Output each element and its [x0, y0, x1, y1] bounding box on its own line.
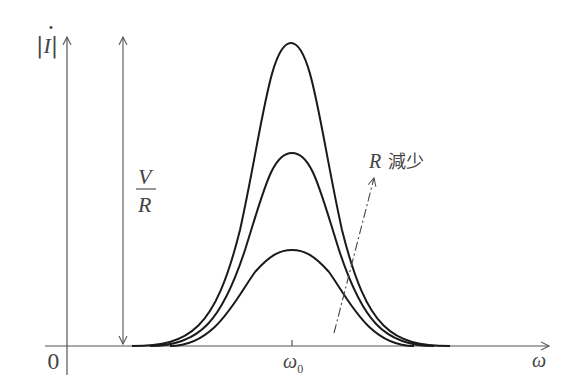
y-axis-label: |I•| [36, 33, 58, 59]
amplitude-numerator: V [138, 164, 151, 190]
y-label-bar-right: | [51, 33, 58, 58]
origin-label: 0 [47, 350, 60, 374]
curve-small-r [132, 43, 450, 346]
resonance-diagram [0, 0, 578, 391]
curve-large-r [170, 250, 414, 346]
amplitude-denominator: R [138, 192, 151, 218]
y-label-dot: • [48, 20, 53, 36]
y-label-symbol: I• [43, 33, 50, 58]
center-frequency-label: ω0 [283, 350, 303, 377]
r-decrease-label: R 減少 [369, 147, 424, 173]
x-axis-label: ω [532, 349, 546, 372]
